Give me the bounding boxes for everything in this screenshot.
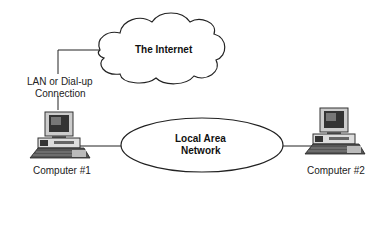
- computer-2-icon: [305, 108, 365, 154]
- connection-label-line2: Connection: [35, 88, 86, 100]
- lan-label-line1: Local Area: [175, 133, 226, 145]
- computer-1-label: Computer #1: [33, 165, 91, 177]
- computer-1-icon: [30, 112, 90, 158]
- lan-label-line2: Network: [181, 145, 220, 157]
- computer-2-label: Computer #2: [307, 165, 365, 177]
- internet-label: The Internet: [135, 44, 192, 56]
- connection-line-internet: [58, 50, 100, 74]
- connection-label-line1: LAN or Dial-up: [27, 76, 93, 88]
